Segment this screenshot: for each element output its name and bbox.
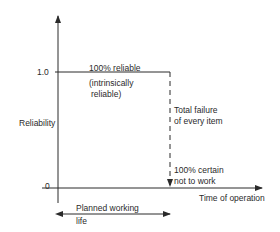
reliable-label: 100% reliable xyxy=(89,63,141,73)
working-life-arrow-left-head xyxy=(55,211,63,217)
reliable-sub1: (intrinsically xyxy=(89,78,133,88)
reliable-sub2: reliable) xyxy=(91,89,121,99)
certain-label-1: 100% certain xyxy=(174,165,224,175)
working-life-label-1: Planned working xyxy=(76,203,139,213)
x-axis-label: Time of operation xyxy=(199,193,265,203)
y-tick-1: 1.0 xyxy=(37,67,49,77)
working-life-label-2: life xyxy=(76,216,87,226)
failure-label-1: Total failure xyxy=(174,105,217,115)
reliability-diagram: 1.0 0 Reliability 100% reliable (intrins… xyxy=(0,0,280,232)
certain-label-2: not to work xyxy=(174,176,216,186)
failure-label-2: of every item xyxy=(174,116,223,126)
y-axis-label: Reliability xyxy=(19,118,55,128)
y-tick-0: 0 xyxy=(45,181,50,191)
